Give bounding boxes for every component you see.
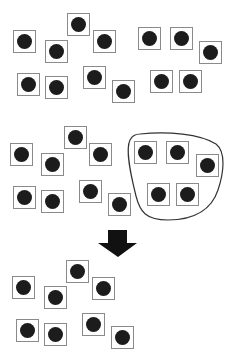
- group-outline: [128, 133, 223, 220]
- dot-icon: [70, 264, 85, 279]
- dot-square-token: [66, 260, 89, 283]
- dot-icon: [48, 327, 63, 342]
- dot-square-token: [12, 276, 35, 299]
- dot-icon: [96, 281, 111, 296]
- down-arrow-icon: [98, 230, 137, 257]
- dot-square-token: [92, 277, 115, 300]
- dot-icon: [16, 280, 31, 295]
- diagram-canvas: [0, 0, 232, 362]
- group-outline-and-arrow: [0, 0, 232, 362]
- dot-icon: [48, 290, 63, 305]
- dot-square-token: [44, 323, 67, 346]
- dot-icon: [115, 330, 130, 345]
- dot-square-token: [82, 313, 105, 336]
- dot-icon: [86, 317, 101, 332]
- dot-square-token: [44, 286, 67, 309]
- dot-square-token: [16, 319, 39, 342]
- dot-icon: [20, 323, 35, 338]
- dot-square-token: [111, 326, 134, 349]
